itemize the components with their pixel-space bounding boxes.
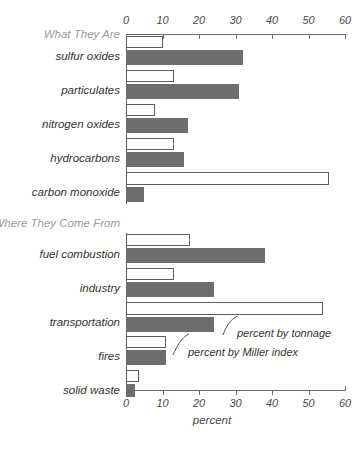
category-label-industry: industry [0, 282, 120, 294]
annotation-percent-by-tonnage: percent by tonnage [237, 327, 331, 339]
category-label-fuel-combustion: fuel combustion [0, 248, 120, 260]
top-tick-10 [163, 35, 164, 39]
tick-label-20: 20 [193, 14, 205, 26]
panel-what-they-are: 0 10 20 30 40 50 60 What They Are sulfur… [0, 14, 363, 204]
top-tick-50 [309, 35, 310, 39]
bar-fires-miller [126, 350, 166, 365]
bottom-tick-40 [272, 391, 273, 395]
bar-nitrogen-oxides-miller [126, 118, 188, 133]
bar-particulates-miller [126, 84, 239, 99]
tick-label-40: 40 [266, 14, 278, 26]
bar-fuel-combustion-miller [126, 248, 265, 263]
bar-solid-waste-tonnage [126, 370, 139, 382]
bottom-tick-20 [199, 391, 200, 395]
category-label-fires: fires [0, 350, 120, 362]
annotation-percent-by-miller-index: percent by Miller index [188, 346, 298, 358]
tick-label-0: 0 [123, 14, 129, 26]
x-axis-title: percent [193, 414, 231, 426]
bottom-tick-60 [345, 386, 346, 391]
tick-label-30: 30 [229, 14, 241, 26]
tick-label-10: 10 [156, 14, 168, 26]
bar-particulates-tonnage [126, 70, 174, 82]
top-tick-60 [345, 34, 346, 39]
bar-sulfur-oxides-miller [126, 50, 243, 65]
category-label-hydrocarbons: hydrocarbons [0, 152, 120, 164]
bar-sulfur-oxides-tonnage [126, 36, 163, 48]
bottom-tick-label-30: 30 [229, 397, 241, 409]
bottom-tick-label-20: 20 [193, 397, 205, 409]
bottom-tick-10 [163, 391, 164, 395]
bottom-tick-label-50: 50 [302, 397, 314, 409]
category-label-sulfur-oxides: sulfur oxides [0, 50, 120, 62]
bar-industry-miller [126, 282, 214, 297]
bottom-tick-label-0: 0 [123, 397, 129, 409]
bar-fires-tonnage [126, 336, 166, 348]
top-axis-tick-labels: 0 10 20 30 40 50 60 [126, 14, 345, 28]
bottom-axis-tick-labels: 0 10 20 30 40 50 60 [126, 397, 345, 411]
bar-nitrogen-oxides-tonnage [126, 104, 155, 116]
bar-fuel-combustion-tonnage [126, 234, 190, 246]
tick-label-50: 50 [302, 14, 314, 26]
category-label-particulates: particulates [0, 84, 120, 96]
bar-hydrocarbons-miller [126, 152, 184, 167]
bottom-tick-0 [126, 391, 127, 395]
section-title-where-they-come-from: Where They Come From [0, 217, 120, 229]
bar-industry-tonnage [126, 268, 174, 280]
category-label-carbon-monoxide: carbon monoxide [0, 186, 120, 198]
bottom-tick-30 [236, 391, 237, 395]
bottom-tick-label-10: 10 [156, 397, 168, 409]
bottom-tick-label-60: 60 [339, 397, 351, 409]
bar-carbon-monoxide-tonnage [126, 172, 329, 185]
category-label-nitrogen-oxides: nitrogen oxides [0, 118, 120, 130]
pollution-bar-chart-figure: 0 10 20 30 40 50 60 What They Are sulfur… [0, 0, 363, 450]
bottom-tick-50 [309, 391, 310, 395]
top-tick-40 [272, 35, 273, 39]
bar-carbon-monoxide-miller [126, 187, 144, 202]
top-tick-30 [236, 35, 237, 39]
category-label-transportation: transportation [0, 316, 120, 328]
bar-transportation-miller [126, 317, 214, 332]
bar-hydrocarbons-tonnage [126, 138, 174, 150]
tick-label-60: 60 [339, 14, 351, 26]
section-title-what-they-are: What They Are [0, 28, 120, 40]
category-label-solid-waste: solid waste [0, 384, 120, 396]
top-tick-20 [199, 35, 200, 39]
panel-where-they-come-from: Where They Come From fuel combustion ind… [0, 215, 363, 430]
bar-transportation-tonnage [126, 302, 323, 315]
bottom-tick-label-40: 40 [266, 397, 278, 409]
